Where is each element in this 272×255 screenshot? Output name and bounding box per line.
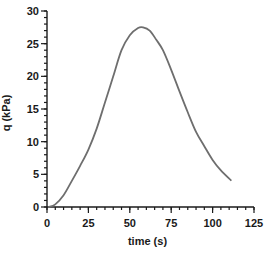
y-axis-ticks: 051015202530 [27, 5, 47, 213]
y-tick-label: 10 [27, 136, 39, 148]
y-tick-label: 30 [27, 5, 39, 17]
x-tick-label: 50 [124, 217, 136, 229]
y-tick-label: 25 [27, 38, 39, 50]
x-tick-label: 100 [203, 217, 221, 229]
y-tick-label: 15 [27, 103, 39, 115]
line-chart: 051015202530 0255075100125 time (s) q (k… [0, 0, 272, 255]
data-series-line [49, 27, 231, 207]
y-axis-title: q (kPa) [0, 94, 12, 131]
x-tick-label: 75 [165, 217, 177, 229]
x-axis-ticks: 0255075100125 [44, 207, 263, 229]
y-tick-label: 0 [33, 201, 39, 213]
x-tick-label: 125 [245, 217, 263, 229]
y-tick-label: 20 [27, 70, 39, 82]
x-tick-label: 25 [82, 217, 94, 229]
x-axis-title: time (s) [128, 235, 167, 247]
y-tick-label: 5 [33, 168, 39, 180]
x-tick-label: 0 [44, 217, 50, 229]
